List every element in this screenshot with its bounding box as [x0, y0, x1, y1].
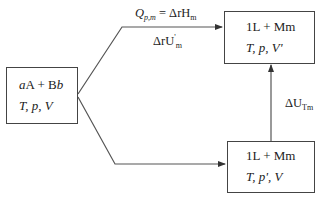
- final-state-const-v-box: 1L + Mm T, p', V: [227, 141, 315, 193]
- upper-path-arrow: [78, 27, 222, 94]
- enthalpy-symbol: = ΔrH: [156, 6, 191, 20]
- final-state-const-p-box: 1L + Mm T, p, V': [224, 11, 315, 64]
- intermediate-state-products: 1L + Mm: [246, 148, 295, 164]
- delta-u-tm-label: ΔUTm: [285, 96, 313, 112]
- delta-u-symbol: ΔU: [285, 96, 302, 110]
- species-A: A: [26, 77, 35, 92]
- lower-path-arrow: [78, 97, 225, 164]
- final-state-conditions: T, p, V': [246, 40, 283, 56]
- delta-r-u-symbol: ΔrU: [153, 34, 174, 48]
- enthalpy-subscript: m: [190, 13, 196, 22]
- species-B: B: [48, 77, 57, 92]
- internal-energy-label: ΔrU'm: [153, 33, 182, 50]
- delta-u-subscript: Tm: [302, 103, 313, 112]
- intermediate-state-conditions: T, p', V: [246, 169, 283, 185]
- coefficient-b: b: [57, 77, 64, 92]
- q-subscript: p,m: [144, 13, 156, 22]
- q-symbol: Q: [135, 6, 144, 20]
- initial-state-reactants: aA + Bb: [19, 77, 63, 93]
- u-subscript: m: [176, 41, 182, 50]
- final-state-products: 1L + Mm: [246, 19, 295, 35]
- heat-enthalpy-label: Qp,m = ΔrHm: [135, 6, 197, 22]
- initial-state-box: aA + Bb T, p, V: [6, 67, 78, 124]
- initial-state-conditions: T, p, V: [19, 98, 53, 114]
- plus-sign: +: [34, 77, 48, 92]
